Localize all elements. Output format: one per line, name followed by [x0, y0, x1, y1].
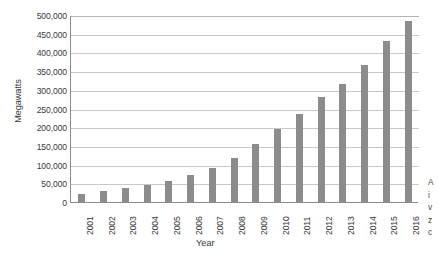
bar	[383, 41, 390, 203]
bar	[318, 97, 325, 203]
bar	[405, 21, 412, 203]
side-caption-line: v	[428, 201, 438, 214]
x-axis-tick-label: 2015	[389, 201, 399, 235]
bar	[296, 114, 303, 203]
y-axis-tick-labels: 050,000100,000150,000200,000250,000300,0…	[20, 16, 67, 203]
x-axis-tick-label: 2004	[150, 201, 160, 235]
x-axis-tick-label: 2013	[346, 201, 356, 235]
y-axis-tick-label: 150,000	[37, 142, 67, 152]
side-caption-line: z	[428, 214, 438, 227]
x-axis-tick-label: 2008	[237, 201, 247, 235]
y-axis-tick-label: 450,000	[37, 30, 67, 40]
x-axis-tick-label: 2001	[85, 201, 95, 235]
x-axis-title: Year	[196, 238, 215, 248]
bar	[274, 129, 281, 203]
bar	[339, 84, 346, 203]
x-axis-tick-label: 2007	[215, 201, 225, 235]
bar	[165, 181, 172, 203]
bar-chart: Megawatts 050,000100,000150,000200,00025…	[0, 0, 438, 262]
bar	[187, 175, 194, 203]
y-axis-tick-label: 50,000	[41, 179, 67, 189]
plot-area	[70, 16, 418, 203]
y-axis-tick-label: 250,000	[37, 105, 67, 115]
bar	[361, 65, 368, 203]
x-axis-tick-label: 2006	[194, 201, 204, 235]
bar	[252, 144, 259, 203]
y-axis-tick-label: 200,000	[37, 123, 67, 133]
y-axis-tick-label: 500,000	[37, 11, 67, 21]
side-caption-line: i	[428, 189, 438, 202]
x-axis-tick-label: 2014	[368, 201, 378, 235]
x-axis-tick-label: 2012	[324, 201, 334, 235]
x-axis-tick-label: 2016	[411, 201, 421, 235]
x-axis-tick-labels: 2001200220032004200520062007200820092010…	[70, 203, 418, 239]
x-axis-tick-label: 2002	[107, 201, 117, 235]
y-axis-tick-label: 300,000	[37, 86, 67, 96]
x-axis-tick-label: 2009	[259, 201, 269, 235]
side-caption-line: A	[428, 176, 438, 189]
y-axis-tick-label: 350,000	[37, 67, 67, 77]
y-axis-tick-label: 0	[62, 198, 67, 208]
x-axis-tick-label: 2010	[281, 201, 291, 235]
x-axis-tick-label: 2011	[302, 201, 312, 235]
x-axis-tick-label: 2003	[128, 201, 138, 235]
bar	[209, 168, 216, 203]
y-axis-tick-label: 400,000	[37, 48, 67, 58]
bar	[231, 158, 238, 203]
x-axis-tick-label: 2005	[172, 201, 182, 235]
side-caption-line: c	[428, 226, 438, 239]
y-axis-tick-label: 100,000	[37, 161, 67, 171]
bar-series	[71, 16, 419, 203]
side-caption: Aivzc	[428, 176, 438, 239]
